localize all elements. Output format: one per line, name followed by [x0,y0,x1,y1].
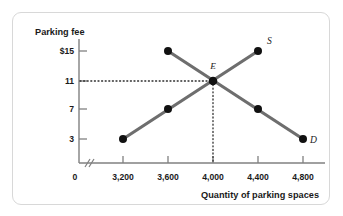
supply-point-3200 [119,135,127,143]
supply-curve: S [119,35,272,143]
figure-panel: $15 11 7 3 0 3,200 3,600 4,000 4,400 4,8… [12,12,330,205]
x-tick-label-4000: 4,000 [202,172,224,182]
y-tick-label-3: 3 [69,134,74,144]
x-axis-title: Quantity of parking spaces [201,190,319,200]
x-tick-label-3200: 3,200 [112,172,134,182]
demand-curve-label: D [309,134,317,145]
equilibrium-point-group: E [209,61,218,85]
supply-curve-label: S [267,35,272,46]
demand-point-4800 [299,135,307,143]
y-tick-label-15: $15 [60,46,75,56]
y-axis-ticks [79,51,87,139]
demand-point-4400 [254,105,262,113]
x-tick-label-4400: 4,400 [247,172,269,182]
x-tick-label-4800: 4,800 [292,172,314,182]
supply-point-3600 [164,105,172,113]
demand-point-3600 [164,47,172,55]
chart-axes [79,39,325,167]
y-tick-label-11: 11 [65,76,74,86]
equilibrium-point [209,77,218,86]
x-tick-label-3600: 3,600 [157,172,179,182]
y-axis-tick-labels: $15 11 7 3 [60,46,75,144]
y-axis-title: Parking fee [35,27,85,37]
supply-demand-chart: $15 11 7 3 0 3,200 3,600 4,000 4,400 4,8… [13,13,331,206]
x-origin-label: 0 [73,172,78,182]
supply-point-4400 [254,47,262,55]
y-tick-label-7: 7 [69,104,74,114]
x-axis-tick-labels: 0 3,200 3,600 4,000 4,400 4,800 [73,172,314,182]
equilibrium-label: E [209,61,216,71]
